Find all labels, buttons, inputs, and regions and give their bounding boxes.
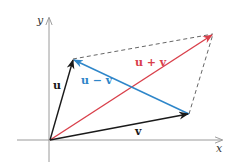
vector-u-minus-v [74, 60, 189, 114]
label-u-plus-v: u + v [135, 56, 167, 69]
y-axis-label: y [36, 14, 44, 27]
label-v: v [134, 125, 142, 138]
label-u: u [53, 79, 61, 92]
vector-diagram: x y u v u + v u − v [0, 0, 234, 167]
x-axis-label: x [216, 142, 223, 155]
label-u-minus-v: u − v [81, 74, 113, 87]
dashed-edge-right [189, 34, 213, 114]
